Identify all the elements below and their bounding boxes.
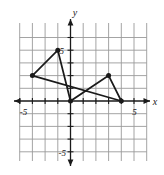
x-tick-label-pos5: 5 — [132, 107, 137, 117]
plot-vertex-e — [119, 99, 124, 104]
y-tick-label-neg5: -5 — [59, 148, 67, 158]
x-axis-label: x — [152, 96, 158, 107]
x-tick-label-neg5: -5 — [20, 107, 28, 117]
y-axis-label: y — [72, 7, 78, 18]
y-tick-label-pos5: 5 — [60, 46, 65, 56]
coordinate-plane-figure: -5 5 5 -5 x y — [0, 0, 164, 175]
y-axis-arrow-down — [68, 160, 74, 167]
axis-ticks — [20, 38, 134, 152]
y-axis-arrow-up — [68, 19, 74, 26]
plot-vertex-c — [68, 99, 73, 104]
plot-vertex-d — [106, 73, 111, 78]
coordinate-plane-svg: -5 5 5 -5 x y — [0, 0, 164, 175]
plot-vertex-a — [30, 73, 35, 78]
